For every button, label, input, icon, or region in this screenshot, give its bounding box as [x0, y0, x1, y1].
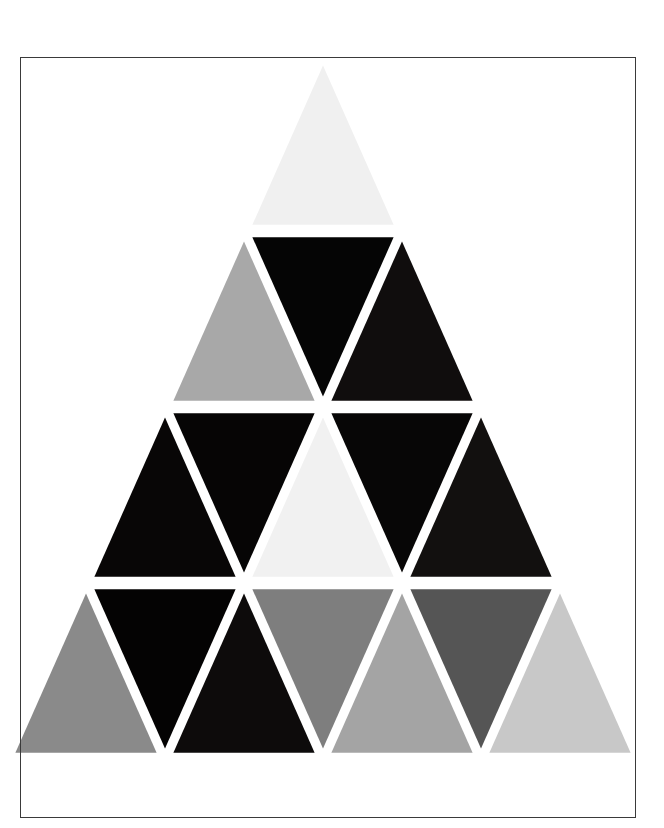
triangle-pyramid-svg — [0, 0, 664, 828]
triangle-group — [15, 65, 630, 752]
artwork-canvas: Triangle Grid Artwork — [0, 0, 664, 828]
triangle-r1-t1 — [252, 65, 393, 224]
